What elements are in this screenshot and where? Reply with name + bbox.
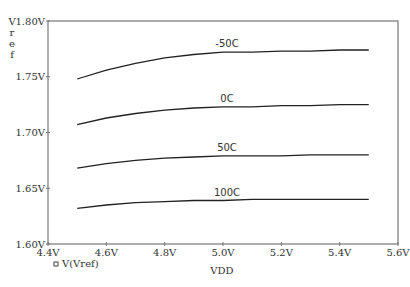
- curve-50c: [77, 155, 369, 168]
- x-axis-title: VDD: [209, 265, 233, 276]
- legend: V(Vref): [54, 258, 99, 269]
- x-tick-label: 4.6V: [95, 247, 119, 258]
- plot-frame: [48, 21, 398, 244]
- curve-label: 0C: [220, 93, 233, 104]
- y-axis-title-letter: f: [10, 49, 15, 60]
- x-tick-label: 5.6V: [386, 247, 410, 258]
- x-tick-label: 5.2V: [270, 247, 294, 258]
- legend-marker-icon: [54, 262, 58, 266]
- curve-label: 50C: [217, 142, 237, 153]
- x-tick-label: 5.0V: [211, 247, 235, 258]
- legend-entry: V(Vref): [61, 258, 99, 269]
- curve-label: -50C: [215, 38, 238, 49]
- vref-vs-vdd-chart: V r e f 1.60V1.65V1.70V1.75V1.80V 4.4V4.…: [0, 0, 410, 287]
- x-tick-label: 5.4V: [328, 247, 352, 258]
- y-axis-title-letter: e: [9, 38, 15, 49]
- curve-100c: [77, 199, 369, 208]
- x-tick-label: 4.4V: [36, 247, 60, 258]
- curve-label: 100C: [214, 187, 240, 198]
- curve-0c: [77, 105, 369, 125]
- curve-labels: -50C0C50C100C: [214, 38, 240, 197]
- y-axis-ticks: 1.60V1.65V1.70V1.75V1.80V: [16, 16, 51, 250]
- y-tick-label: 1.70V: [16, 127, 46, 138]
- y-axis-title-letter: r: [10, 27, 15, 38]
- y-tick-label: 1.75V: [16, 71, 46, 82]
- y-tick-label: 1.65V: [16, 183, 46, 194]
- y-tick-label: 1.80V: [16, 16, 46, 27]
- curve--50c: [77, 50, 369, 79]
- x-tick-label: 4.8V: [153, 247, 177, 258]
- curves: [77, 50, 369, 208]
